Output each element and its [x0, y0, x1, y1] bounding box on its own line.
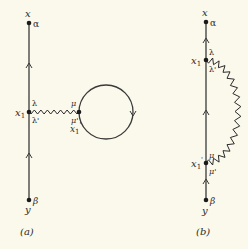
point-y-a: [27, 198, 32, 203]
label-x1-a: x1: [15, 107, 25, 120]
caption-b: (b): [196, 226, 210, 237]
label-mu-a: μ: [71, 99, 76, 108]
label-x1-prime-b: x1': [191, 156, 203, 171]
label-y-b: y: [201, 205, 208, 216]
vertex-x1-b: [204, 58, 209, 63]
label-x1-b: x1: [191, 55, 201, 68]
point-y-b: [204, 198, 209, 203]
label-alpha-b: α: [210, 18, 216, 28]
label-mu-prime-b: μ': [209, 167, 216, 176]
label-y-a: y: [24, 204, 31, 215]
label-beta-a: β: [32, 196, 38, 206]
vertex-x1-prime-a: [77, 110, 82, 115]
diagram-a: x α y β x1 λ λ' μ μ' x1' (a): [15, 8, 136, 237]
label-x-a: x: [25, 8, 31, 19]
photon-propagator-a: [29, 110, 79, 114]
label-lambda-a: λ: [32, 99, 37, 108]
label-alpha-a: α: [33, 19, 39, 29]
label-lambda-prime-b: λ': [209, 65, 216, 74]
point-x-a: [27, 21, 32, 26]
diagram-b: x α y β x1 λ λ' x1' μ μ' (b): [191, 7, 241, 237]
label-lambda-prime-a: λ': [32, 116, 39, 125]
vertex-x1-prime-b: [204, 161, 209, 166]
label-mu-b: μ: [209, 151, 214, 160]
fermion-loop: [79, 85, 133, 139]
feynman-diagrams: x α y β x1 λ λ' μ μ' x1' (a) x α y β x1 …: [0, 0, 248, 249]
label-lambda-b: λ: [209, 48, 214, 57]
point-x-b: [204, 20, 209, 25]
label-x-b: x: [202, 7, 208, 18]
photon-propagator-b: [206, 58, 241, 165]
caption-a: (a): [20, 226, 34, 237]
label-beta-b: β: [209, 196, 215, 206]
